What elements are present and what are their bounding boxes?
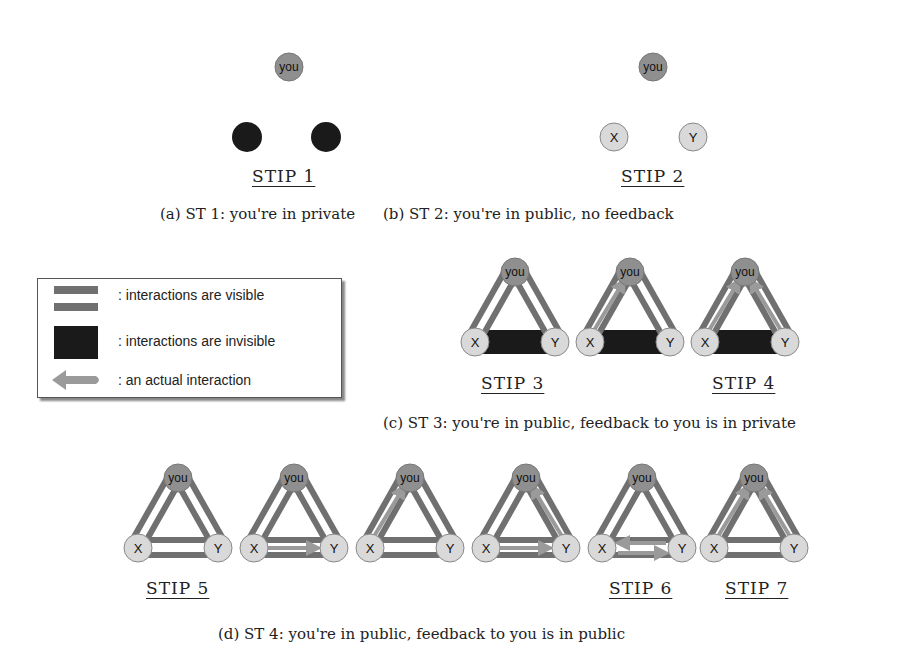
double-bar-icon	[54, 286, 98, 294]
stip4-triangle	[691, 258, 799, 356]
stip-label-2: STIP 2	[621, 166, 684, 186]
stip2-diagram	[600, 53, 707, 151]
black-block-icon	[54, 326, 98, 359]
stip5-triangle-3	[356, 464, 464, 562]
stip-label-6: STIP 6	[609, 578, 672, 598]
caption-a: (a) ST 1: you're in private	[160, 205, 355, 223]
stip-label-3: STIP 3	[481, 373, 544, 393]
stip-label-5: STIP 5	[146, 578, 209, 598]
stip5-triangle-1	[124, 464, 232, 562]
stip6-triangle	[588, 464, 696, 562]
legend-box: : interactions are visible : interaction…	[37, 278, 342, 398]
legend-label-visible: : interactions are visible	[118, 287, 264, 303]
stip-label-1: STIP 1	[252, 166, 315, 186]
stip7-triangle	[700, 464, 808, 562]
stip3-triangle-2	[576, 258, 684, 356]
caption-d: (d) ST 4: you're in public, feedback to …	[218, 625, 625, 643]
stip5-triangle-2	[240, 464, 348, 562]
stip1-diagram	[232, 53, 341, 152]
arrow-left-icon	[48, 365, 108, 395]
stip-label-7: STIP 7	[725, 578, 788, 598]
stip5-triangle-4	[472, 464, 580, 562]
stip-label-4: STIP 4	[712, 373, 775, 393]
stip3-triangle-1	[461, 258, 569, 356]
legend-label-invisible: : interactions are invisible	[118, 333, 275, 349]
caption-b: (b) ST 2: you're in public, no feedback	[383, 205, 674, 223]
double-bar-icon	[54, 303, 98, 311]
caption-c: (c) ST 3: you're in public, feedback to …	[383, 414, 796, 432]
legend-label-actual: : an actual interaction	[118, 372, 251, 388]
